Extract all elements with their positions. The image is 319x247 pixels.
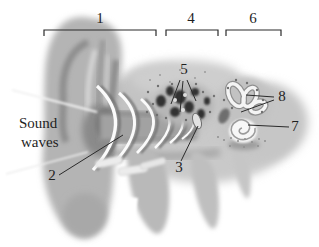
region-bracket-6 bbox=[226, 30, 281, 36]
leader-line-5 bbox=[187, 80, 196, 101]
leader-line-3 bbox=[181, 126, 198, 161]
label-region-4: 4 bbox=[187, 11, 195, 26]
leader-line-5 bbox=[180, 81, 183, 112]
label-pointer-5: 5 bbox=[180, 62, 188, 77]
label-region-6: 6 bbox=[249, 11, 257, 26]
sound-waves-label-line2: waves bbox=[21, 135, 59, 150]
leader-line-5 bbox=[171, 80, 180, 104]
leader-line-8 bbox=[241, 100, 274, 112]
region-bracket-4 bbox=[166, 30, 218, 36]
label-pointer-8: 8 bbox=[278, 89, 286, 104]
ear-anatomy-figure: 1 4 6 5 8 7 2 3 Sound waves bbox=[0, 0, 319, 247]
label-pointer-3: 3 bbox=[175, 160, 183, 175]
leader-line-2 bbox=[59, 135, 123, 175]
label-pointer-2: 2 bbox=[48, 168, 56, 183]
sound-waves-label-line1: Sound bbox=[19, 116, 57, 131]
label-pointer-7: 7 bbox=[291, 119, 299, 134]
leader-line-8 bbox=[246, 95, 274, 97]
leader-line-7 bbox=[248, 125, 289, 127]
label-region-1: 1 bbox=[96, 11, 104, 26]
region-bracket-1 bbox=[44, 30, 156, 36]
